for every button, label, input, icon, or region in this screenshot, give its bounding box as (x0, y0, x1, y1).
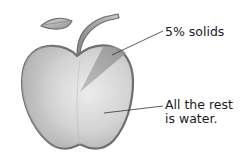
apple-leaf (41, 18, 72, 29)
water-label: All the rest is water. (165, 98, 233, 126)
water-label-line-1: All the rest (165, 98, 233, 112)
solids-label: 5% solids (165, 25, 224, 39)
apple-composition-diagram: 5% solids All the rest is water. (0, 0, 243, 156)
water-label-line-2: is water. (165, 112, 233, 126)
leader-line-solids (112, 31, 163, 55)
